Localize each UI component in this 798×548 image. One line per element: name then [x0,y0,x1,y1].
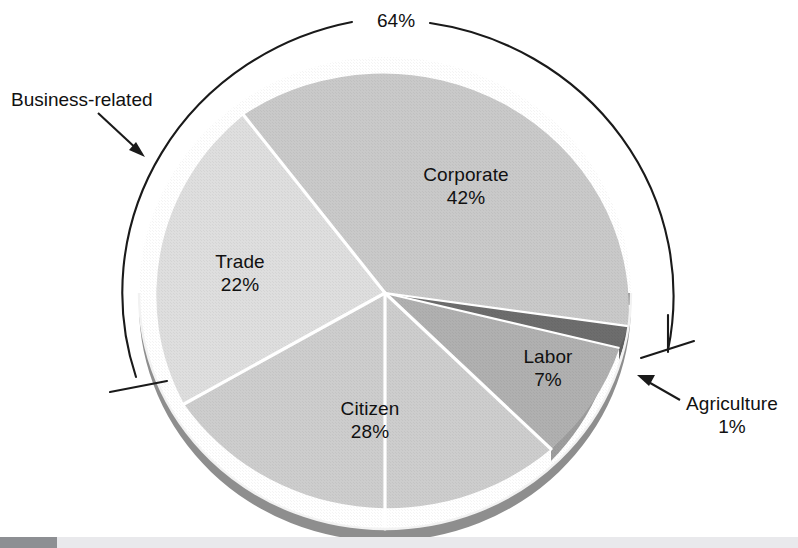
pie-label-corporate-name: Corporate [423,164,508,185]
pie-label-citizen-value: 28% [305,420,435,443]
pie-chart-graphic [0,0,798,548]
footer-bar [0,537,798,548]
pie-label-agriculture: Agriculture 1% [673,392,791,438]
pie-chart-figure: Corporate 42% Trade 22% Citizen 28% Labo… [0,0,798,548]
pie-label-trade: Trade 22% [180,250,300,296]
pie-label-trade-name: Trade [215,251,264,272]
pie-label-labor-name: Labor [523,346,572,367]
annotation-business-related-value: 64% [372,10,420,32]
footer-bar-accent [0,537,57,548]
pie-label-labor: Labor 7% [498,345,598,391]
pie-label-citizen-name: Citizen [341,398,400,419]
pie-label-corporate-value: 42% [396,186,536,209]
business-related-arrow [98,113,145,157]
pie-label-agriculture-value: 1% [673,415,791,438]
pie-label-trade-value: 22% [180,273,300,296]
annotation-business-related: Business-related [11,88,153,111]
pie-label-agriculture-name: Agriculture [686,393,778,414]
pie-label-corporate: Corporate 42% [396,163,536,209]
pie-label-labor-value: 7% [498,368,598,391]
pie-label-citizen: Citizen 28% [305,397,435,443]
